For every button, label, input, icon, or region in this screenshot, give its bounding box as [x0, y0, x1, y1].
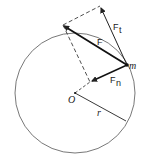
label-force: F	[97, 37, 103, 47]
circular-motion-diagram: F F t F n m O r	[0, 0, 143, 158]
label-radius: r	[97, 107, 101, 118]
dashed-line-top	[63, 6, 100, 25]
label-mass: m	[129, 60, 136, 71]
label-tangential-sub: t	[119, 25, 122, 35]
label-center: O	[68, 94, 75, 105]
dashed-line-center	[75, 82, 90, 93]
label-normal-sub: n	[116, 78, 121, 88]
